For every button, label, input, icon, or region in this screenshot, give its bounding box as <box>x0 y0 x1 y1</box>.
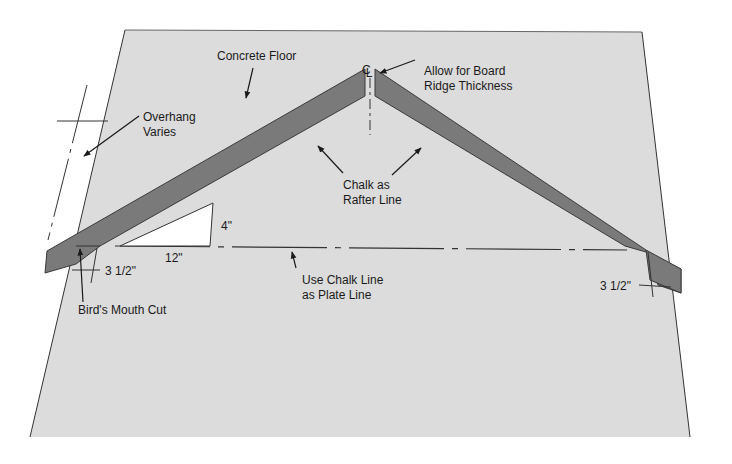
label-concrete-floor: Concrete Floor <box>217 49 296 64</box>
label-centerline: CL <box>362 63 377 78</box>
label-overhang-line2: Varies <box>143 125 176 140</box>
centerline-symbol: CL <box>362 63 372 80</box>
label-overhang-line1: Overhang <box>143 110 196 125</box>
label-plate-line-line2: as Plate Line <box>302 288 371 303</box>
label-chalk-rafter-line2: Rafter Line <box>343 193 402 208</box>
label-seat-right: 3 1/2" <box>600 279 631 294</box>
label-allow-board-line2: Ridge Thickness <box>424 79 513 94</box>
label-seat-left: 3 1/2" <box>105 264 136 279</box>
label-chalk-rafter-line1: Chalk as <box>343 178 390 193</box>
label-plate-line-line1: Use Chalk Line <box>302 273 383 288</box>
label-rise: 4" <box>221 219 232 234</box>
label-allow-board-line1: Allow for Board <box>424 64 505 79</box>
label-run: 12" <box>165 251 183 266</box>
label-birds-mouth: Bird's Mouth Cut <box>78 303 166 318</box>
